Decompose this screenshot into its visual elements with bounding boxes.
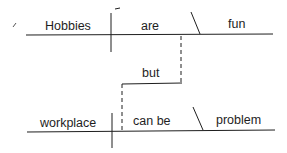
clause2-subject: workplace <box>40 117 96 130</box>
bottom-complement-slash <box>193 107 203 130</box>
clause2-complement: problem <box>216 114 261 127</box>
bottom-baseline <box>27 130 275 132</box>
clause1-complement: fun <box>228 18 245 31</box>
corner-mark <box>13 23 16 27</box>
conjunction-line <box>122 83 182 84</box>
tick-mark <box>115 8 120 9</box>
clause1-subject: Hobbies <box>45 20 91 33</box>
top-baseline <box>26 34 273 35</box>
clause1-verb: are <box>141 20 159 33</box>
conjunction: but <box>142 67 159 80</box>
top-complement-slash <box>191 12 200 34</box>
clause2-verb: can be <box>133 115 171 128</box>
